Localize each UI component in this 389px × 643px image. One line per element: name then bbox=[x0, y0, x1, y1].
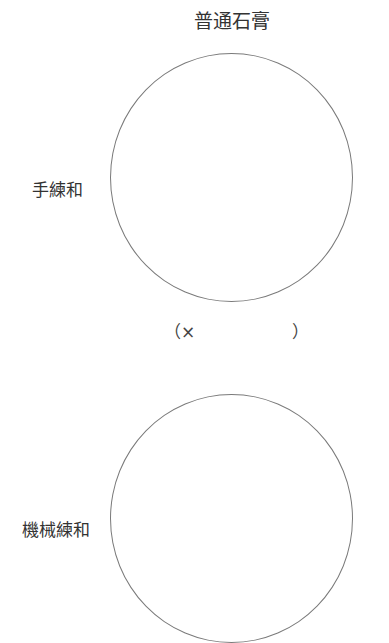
row-label-hand-mixing: 手練和 bbox=[32, 176, 83, 201]
observation-circle-hand-mixing bbox=[110, 53, 353, 302]
magnification-close: ） bbox=[292, 318, 309, 343]
observation-circle-machine-mixing bbox=[110, 394, 353, 643]
row-label-machine-mixing: 機械練和 bbox=[22, 516, 90, 541]
column-title: 普通石膏 bbox=[180, 6, 284, 33]
magnification-open: （× bbox=[164, 318, 195, 343]
